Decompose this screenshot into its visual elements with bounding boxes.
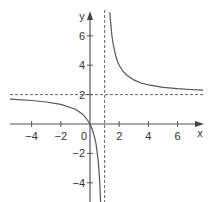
x-tick-label: 4 bbox=[145, 130, 151, 142]
x-tick-label: −2 bbox=[55, 130, 68, 142]
chart-canvas: −4 −2 0 2 4 6 6 4 2 −2 −4 x y bbox=[0, 0, 211, 202]
y-tick-label: 4 bbox=[79, 59, 85, 71]
x-tick-label: 0 bbox=[81, 130, 87, 142]
y-tick-label: 6 bbox=[79, 30, 85, 42]
x-tick-label: 2 bbox=[116, 130, 122, 142]
curve-left-branch bbox=[10, 99, 101, 202]
y-tick-label: −4 bbox=[72, 177, 85, 189]
x-tick-label: 6 bbox=[175, 130, 181, 142]
y-axis-label: y bbox=[79, 10, 85, 22]
x-tick-label: −4 bbox=[25, 130, 38, 142]
y-axis-arrow-icon bbox=[87, 11, 93, 20]
y-tick-label: −2 bbox=[72, 147, 85, 159]
curve-right-branch bbox=[110, 12, 203, 90]
y-tick-label: 2 bbox=[79, 89, 85, 101]
x-axis-label: x bbox=[197, 127, 203, 139]
